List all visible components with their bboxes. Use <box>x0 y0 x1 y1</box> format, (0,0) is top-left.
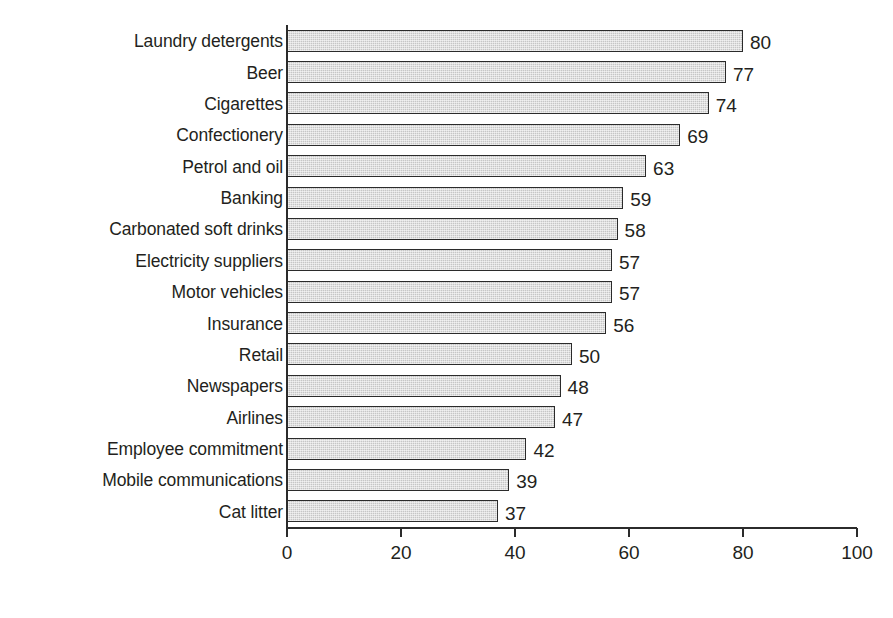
bar <box>287 218 618 240</box>
x-axis-tick-label: 80 <box>732 543 753 562</box>
bar <box>287 124 680 146</box>
category-label: Laundry detergents <box>0 33 283 51</box>
x-axis-tick <box>742 528 744 537</box>
category-label: Petrol and oil <box>0 159 283 177</box>
bar-value-label: 69 <box>687 127 708 146</box>
bar <box>287 500 498 522</box>
bar <box>287 312 606 334</box>
category-label: Cat litter <box>0 504 283 522</box>
category-label: Mobile communications <box>0 472 283 490</box>
category-label: Insurance <box>0 316 283 334</box>
x-axis-tick <box>514 528 516 537</box>
x-axis-tick <box>286 528 288 537</box>
bar-value-label: 48 <box>568 378 589 397</box>
bar-value-label: 80 <box>750 33 771 52</box>
x-axis-tick-label: 0 <box>282 543 293 562</box>
x-axis-tick-label: 60 <box>618 543 639 562</box>
x-axis-tick <box>400 528 402 537</box>
category-label: Beer <box>0 65 283 83</box>
bar <box>287 187 623 209</box>
category-label: Motor vehicles <box>0 284 283 302</box>
x-axis-tick <box>856 528 858 537</box>
bar <box>287 249 612 271</box>
plot-area: 80777469635958575756504847423937 0204060… <box>287 25 857 527</box>
bar <box>287 375 561 397</box>
category-label: Confectionery <box>0 127 283 145</box>
category-label: Retail <box>0 347 283 365</box>
x-axis-tick-label: 100 <box>841 543 873 562</box>
bar-value-label: 58 <box>625 221 646 240</box>
bar <box>287 30 743 52</box>
category-axis-labels: Laundry detergentsBeerCigarettesConfecti… <box>0 25 283 527</box>
category-label: Electricity suppliers <box>0 253 283 271</box>
bar-value-label: 57 <box>619 284 640 303</box>
category-label: Banking <box>0 190 283 208</box>
bar-value-label: 56 <box>613 316 634 335</box>
bar-value-label: 47 <box>562 410 583 429</box>
bar-value-label: 50 <box>579 347 600 366</box>
bar-value-label: 74 <box>716 96 737 115</box>
bar-value-label: 39 <box>516 472 537 491</box>
bar <box>287 61 726 83</box>
bar-value-label: 77 <box>733 65 754 84</box>
bar-value-label: 57 <box>619 253 640 272</box>
x-axis-line <box>286 527 857 529</box>
x-axis-tick-label: 40 <box>504 543 525 562</box>
category-label: Cigarettes <box>0 96 283 114</box>
x-axis-tick-label: 20 <box>390 543 411 562</box>
bar <box>287 343 572 365</box>
bar <box>287 92 709 114</box>
bar-value-label: 63 <box>653 159 674 178</box>
horizontal-bar-chart: Laundry detergentsBeerCigarettesConfecti… <box>0 0 893 618</box>
bar <box>287 406 555 428</box>
bar <box>287 155 646 177</box>
bar-value-label: 59 <box>630 190 651 209</box>
bar <box>287 469 509 491</box>
bar <box>287 438 526 460</box>
bar-value-label: 42 <box>533 441 554 460</box>
bar <box>287 281 612 303</box>
category-label: Newspapers <box>0 378 283 396</box>
category-label: Employee commitment <box>0 441 283 459</box>
category-label: Airlines <box>0 410 283 428</box>
bar-value-label: 37 <box>505 504 526 523</box>
x-axis-tick <box>628 528 630 537</box>
category-label: Carbonated soft drinks <box>0 221 283 239</box>
